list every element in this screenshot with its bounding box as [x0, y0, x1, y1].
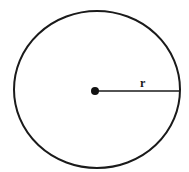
- radius-label: r: [140, 76, 146, 90]
- circle-diagram: r: [0, 0, 189, 172]
- center-point: [91, 87, 99, 95]
